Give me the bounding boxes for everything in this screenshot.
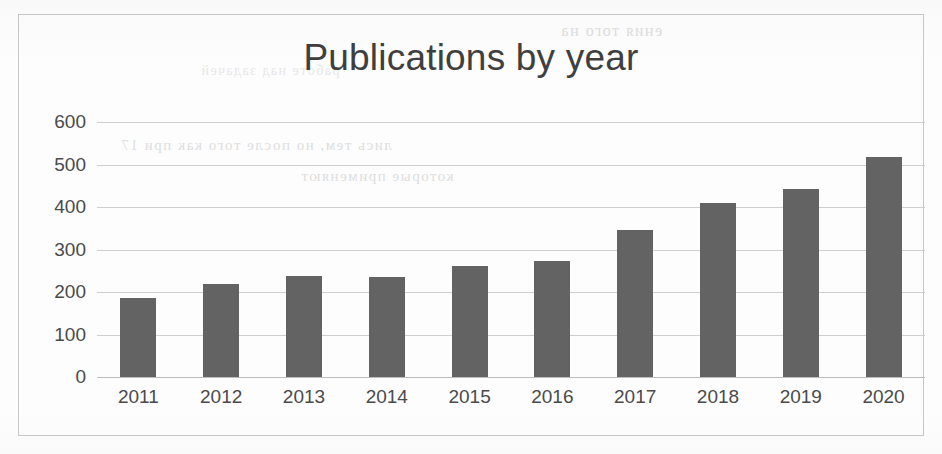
y-axis-tick-label: 100 — [54, 323, 86, 345]
x-axis-tick-label: 2016 — [511, 386, 594, 408]
x-axis-tick-label: 2011 — [97, 386, 180, 408]
x-axis-tick-label: 2014 — [345, 386, 428, 408]
bar-2017 — [617, 230, 653, 377]
bar-2014 — [369, 277, 405, 377]
bar-2016 — [534, 261, 570, 377]
y-axis-tick-label: 200 — [54, 281, 86, 303]
x-axis-tick-label: 2019 — [759, 386, 842, 408]
bar-2013 — [286, 276, 322, 377]
x-axis-tick-label: 2013 — [263, 386, 346, 408]
bar-2020 — [866, 157, 902, 377]
x-axis-tick-label: 2012 — [180, 386, 263, 408]
y-axis-tick-label: 500 — [54, 153, 86, 175]
x-axis-tick-label: 2017 — [594, 386, 677, 408]
bar-2019 — [783, 189, 819, 377]
scanned-page: ения того на лись тем, но после того как… — [0, 0, 942, 454]
gridline-0 — [97, 377, 925, 378]
bar-slot: 2012 — [180, 122, 263, 377]
y-axis-tick-label: 600 — [54, 111, 86, 133]
bar-slot: 2020 — [842, 122, 925, 377]
y-axis-tick-label: 0 — [75, 366, 86, 388]
bar-slot: 2015 — [428, 122, 511, 377]
y-axis-tick-label: 300 — [54, 238, 86, 260]
plot-area: 0100200300400500600 20112012201320142015… — [97, 122, 925, 377]
x-axis-tick-label: 2015 — [428, 386, 511, 408]
x-axis-tick-label: 2020 — [842, 386, 925, 408]
chart-frame: Publications by year 0100200300400500600… — [18, 14, 924, 436]
bar-slot: 2013 — [263, 122, 346, 377]
bar-series: 2011201220132014201520162017201820192020 — [97, 122, 925, 377]
bar-slot: 2017 — [594, 122, 677, 377]
bar-slot: 2016 — [511, 122, 594, 377]
bar-2018 — [700, 203, 736, 377]
chart-title: Publications by year — [19, 37, 923, 79]
y-axis-tick-label: 400 — [54, 196, 86, 218]
x-axis-tick-label: 2018 — [677, 386, 760, 408]
bar-2012 — [203, 284, 239, 377]
bar-2015 — [452, 266, 488, 377]
bar-2011 — [120, 298, 156, 377]
bar-slot: 2011 — [97, 122, 180, 377]
bar-slot: 2014 — [345, 122, 428, 377]
bar-slot: 2018 — [677, 122, 760, 377]
bar-slot: 2019 — [759, 122, 842, 377]
